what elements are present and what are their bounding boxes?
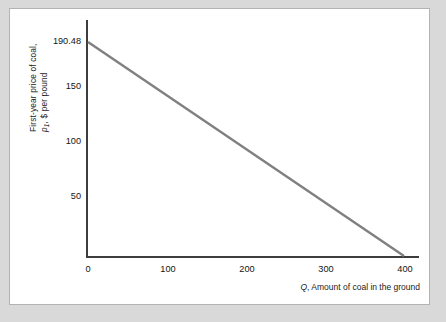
x-tick-text: 200 [227,264,267,274]
figure-root: First-year price of coal, p1, $ per poun… [0,0,446,322]
plot-svg [0,0,446,322]
x-tick-label-200: 200 [227,264,267,276]
plot-area: First-year price of coal, p1, $ per poun… [0,0,446,322]
price-schedule-line [88,42,404,256]
x-tick-text: 300 [306,264,346,274]
x-tick-label-400: 400 [385,264,425,276]
x-tick-text: 100 [148,264,188,274]
x-tick-label-0: 0 [68,264,108,276]
x-tick-text: 400 [385,264,425,274]
x-axis-label-text: , Amount of coal in the ground [307,282,420,292]
x-tick-text: 0 [68,264,108,274]
x-tick-label-100: 100 [148,264,188,276]
x-axis-label: Q, Amount of coal in the ground [196,282,420,292]
x-tick-label-300: 300 [306,264,346,276]
